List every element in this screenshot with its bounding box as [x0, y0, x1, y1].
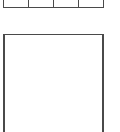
- grid-cell[interactable]: [4, 0, 29, 7]
- grid-cell[interactable]: [79, 0, 103, 7]
- grid-cell[interactable]: [54, 0, 79, 7]
- empty-panel: [3, 34, 104, 132]
- cell-grid-strip: [3, 0, 104, 8]
- grid-cell[interactable]: [29, 0, 54, 7]
